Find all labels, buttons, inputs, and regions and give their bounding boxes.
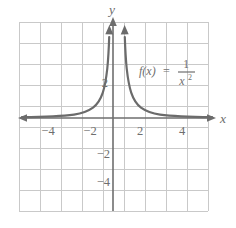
fraction-numerator: 1	[183, 58, 189, 70]
x-tick-label-4: 4	[179, 124, 186, 138]
x-tick-label-neg4: −4	[41, 124, 55, 138]
x-tick-label-2: 2	[137, 124, 143, 138]
coordinate-plane-svg: −4 −2 2 4 2 −2 −4 y x f(x) = 1 x 2	[0, 0, 236, 228]
curve-left-arrowhead	[105, 25, 113, 34]
y-tick-label-neg2: −2	[97, 147, 110, 161]
axes	[22, 19, 212, 211]
x-tick-label-neg2: −2	[83, 124, 96, 138]
y-axis-label: y	[107, 2, 115, 17]
fraction-denominator-base: x	[178, 74, 185, 88]
graph-figure: −4 −2 2 4 2 −2 −4 y x f(x) = 1 x 2	[0, 0, 236, 228]
y-tick-label-2: 2	[102, 76, 108, 90]
x-axis-label: x	[219, 111, 226, 126]
curve-left-branch	[22, 37, 109, 117]
curve-right-arrowhead	[121, 25, 129, 34]
fraction-denominator-exponent: 2	[188, 73, 192, 82]
function-name: f(x)	[139, 64, 156, 78]
y-tick-label-neg4: −4	[97, 175, 111, 189]
equals-sign: =	[163, 64, 170, 78]
